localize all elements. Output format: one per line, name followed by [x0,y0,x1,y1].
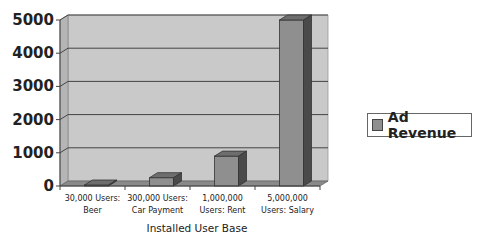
x-axis-label: Installed User Base [147,222,248,234]
y-tick-label: 1000 [12,144,54,162]
side-wall [60,15,68,186]
y-tick-label: 4000 [12,44,54,62]
bar [150,173,182,186]
x-tick-label: 300,000 Users: [127,194,188,203]
y-axis-ticks: 010002000300040005000 [12,11,60,195]
bar-front [280,20,304,186]
bar-front [150,178,174,186]
bar-side [239,151,247,186]
x-tick-label: Beer [83,206,102,215]
x-tick-label: 30,000 Users: [65,194,121,203]
y-tick-label: 2000 [12,111,54,129]
bar-side [304,15,312,186]
legend: Ad Revenue [367,113,472,137]
legend-label-ad-revenue: Ad Revenue [388,109,471,141]
x-tick-label: Users: Rent [200,206,246,215]
legend-swatch-ad-revenue [372,119,383,131]
x-tick-label: Users: Salary [261,206,314,215]
x-tick-label: 5,000,000 [267,194,308,203]
y-tick-label: 0 [44,177,54,195]
y-tick-label: 5000 [12,11,54,29]
bar [215,151,247,186]
x-axis-ticks: 30,000 Users:Beer300,000 Users:Car Payme… [60,186,320,215]
x-tick-label: Car Payment [132,206,183,215]
x-tick-label: 1,000,000 [202,194,243,203]
y-tick-label: 3000 [12,77,54,95]
bar [280,15,312,186]
bar-front [215,156,239,186]
